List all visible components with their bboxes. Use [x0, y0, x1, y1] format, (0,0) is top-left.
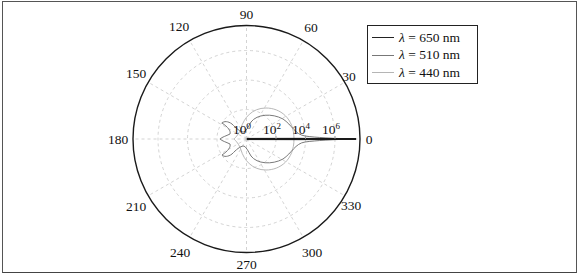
legend-text-440nm: = 440 nm	[405, 65, 460, 80]
angle-label-180: 180	[108, 132, 129, 147]
legend-text-510nm: = 510 nm	[405, 47, 460, 62]
angle-label-330: 330	[341, 198, 362, 213]
radial-label-10e0: 100	[233, 121, 252, 137]
legend-item-650nm: λ = 650 nm	[372, 29, 477, 47]
legend-swatch-650nm	[372, 37, 394, 38]
legend-swatch-510nm	[372, 55, 394, 56]
angle-label-300: 300	[302, 245, 323, 260]
angle-label-270: 270	[236, 257, 257, 272]
legend-item-440nm: λ = 440 nm	[372, 64, 477, 82]
angle-label-120: 120	[169, 19, 190, 34]
polar-plot: 0 30 60 90 120 150 180 210 240 270 300 3…	[0, 0, 584, 280]
angle-label-0: 0	[366, 132, 373, 147]
legend-item-510nm: λ = 510 nm	[372, 47, 477, 65]
angle-label-60: 60	[304, 20, 318, 35]
angle-label-30: 30	[342, 69, 356, 84]
radial-label-10e6: 106	[322, 121, 341, 137]
angle-label-150: 150	[126, 66, 147, 81]
angle-label-210: 210	[126, 199, 147, 214]
angle-label-240: 240	[170, 245, 191, 260]
legend: λ = 650 nm λ = 510 nm λ = 440 nm	[367, 25, 478, 84]
radial-label-10e2: 102	[263, 121, 281, 137]
angle-label-90: 90	[240, 7, 254, 22]
legend-text-650nm: = 650 nm	[405, 30, 460, 45]
legend-swatch-440nm	[372, 72, 394, 73]
radial-labels: 100 102 104 106	[233, 121, 341, 137]
radial-label-10e4: 104	[292, 121, 311, 137]
